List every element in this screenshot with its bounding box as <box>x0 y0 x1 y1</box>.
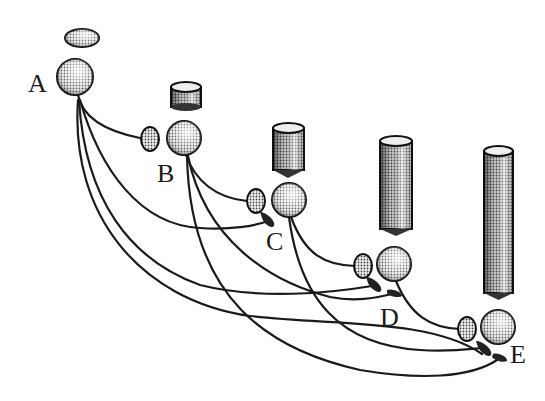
input-ear-icon <box>141 127 159 151</box>
network-diagram: A B C <box>0 0 545 401</box>
wire-d-e <box>396 281 460 329</box>
node-e: E <box>458 146 526 369</box>
node-label-c: C <box>266 227 283 256</box>
input-ear-icon <box>354 254 372 278</box>
wire-a-b <box>78 95 140 138</box>
synapse-icon <box>260 212 274 227</box>
wire-b-c <box>186 155 247 201</box>
node-label-e: E <box>510 340 526 369</box>
node-label-d: D <box>380 303 399 332</box>
node-label-b: B <box>157 159 174 188</box>
cylinder-icon <box>171 82 201 111</box>
node-label-a: A <box>28 69 47 98</box>
input-ear-icon <box>247 189 265 213</box>
synapse-icon <box>366 277 381 292</box>
wire-b-e <box>187 156 497 376</box>
input-ear-icon <box>458 317 476 341</box>
cylinder-icon <box>380 136 412 236</box>
wire-c-d <box>291 217 355 266</box>
node-c: C <box>247 123 306 256</box>
cylinder-icon <box>484 146 513 300</box>
node-a: A <box>28 29 99 98</box>
node-d: D <box>354 136 412 332</box>
cylinder-icon <box>273 123 304 178</box>
